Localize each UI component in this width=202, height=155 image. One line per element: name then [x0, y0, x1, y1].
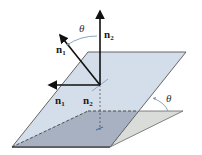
theta-label-planes: θ [166, 92, 172, 104]
two-planes-diagram: θ θ n2 n1 n1 n2 [0, 0, 202, 155]
theta-label-normals: θ [79, 22, 85, 34]
n2-top-label: n2 [104, 28, 114, 42]
n1-tilted-label: n1 [56, 43, 66, 57]
theta-arc-normals [67, 36, 97, 45]
